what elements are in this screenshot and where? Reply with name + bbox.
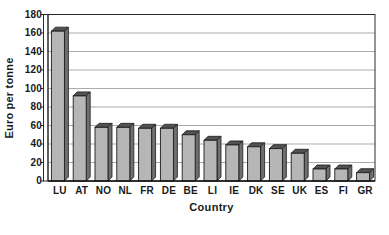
bar-side-AT xyxy=(86,92,90,181)
bar-side-DK xyxy=(261,143,265,181)
bar-SE xyxy=(269,149,282,181)
bar-DK xyxy=(248,147,261,181)
bar-NO xyxy=(95,127,108,181)
bar-FI xyxy=(335,169,348,181)
bar-side-UK xyxy=(304,149,308,181)
bar-side-SE xyxy=(282,145,286,181)
bar-chart-figure: Euro per tonne 020406080100120140160180 … xyxy=(0,0,389,235)
y-tick-label-100: 100 xyxy=(12,83,42,95)
bar-side-IE xyxy=(239,141,243,181)
bar-side-LI xyxy=(217,136,221,181)
y-axis-wall xyxy=(44,15,49,182)
bar-IE xyxy=(226,145,239,181)
y-tick-label-20: 20 xyxy=(12,157,42,169)
y-tick-label-140: 140 xyxy=(12,46,42,58)
plot-area xyxy=(0,0,389,235)
bar-LI xyxy=(204,140,217,181)
bar-DE xyxy=(160,128,173,181)
x-category-label-GR: GR xyxy=(352,185,378,197)
y-tick-label-160: 160 xyxy=(12,27,42,39)
bar-side-FR xyxy=(152,124,156,181)
y-tick-label-180: 180 xyxy=(12,9,42,21)
bar-side-BE xyxy=(195,131,199,181)
bar-side-NO xyxy=(108,123,112,181)
y-tick-label-120: 120 xyxy=(12,64,42,76)
bar-LU xyxy=(51,31,64,181)
y-axis-title: Euro per tonne xyxy=(3,17,17,179)
bar-BE xyxy=(182,135,195,181)
bar-ES xyxy=(313,169,326,181)
x-axis-title: Country xyxy=(48,201,375,213)
bar-AT xyxy=(73,96,86,181)
y-tick-label-60: 60 xyxy=(12,120,42,132)
bar-side-LU xyxy=(64,27,68,181)
bar-side-NL xyxy=(130,123,134,181)
y-tick-label-80: 80 xyxy=(12,101,42,113)
y-tick-label-40: 40 xyxy=(12,138,42,150)
bar-UK xyxy=(291,153,304,181)
bar-GR xyxy=(357,173,370,181)
bar-NL xyxy=(117,127,130,181)
bar-side-DE xyxy=(173,124,177,181)
y-tick-label-0: 0 xyxy=(12,175,42,187)
bar-FR xyxy=(139,128,152,181)
